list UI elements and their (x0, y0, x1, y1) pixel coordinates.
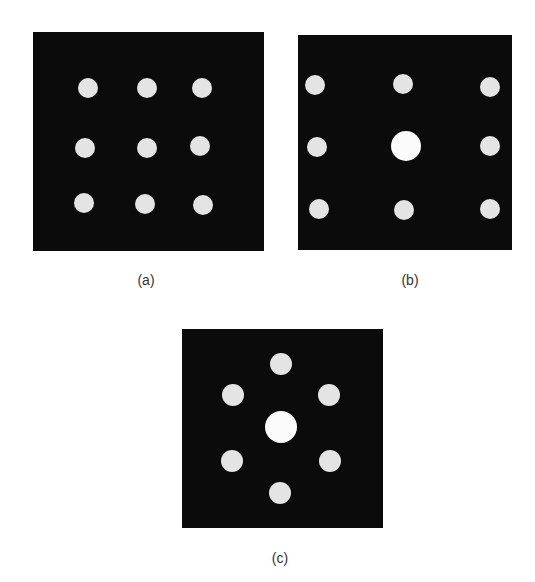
dot (480, 77, 500, 97)
dot (192, 78, 212, 98)
panel-b-label: (b) (401, 272, 418, 288)
center-dot (391, 131, 421, 161)
dot (309, 199, 329, 219)
dot (393, 74, 413, 94)
dot (221, 450, 243, 472)
dot (307, 137, 327, 157)
dot (190, 136, 210, 156)
dot (74, 193, 94, 213)
panel-b (298, 35, 512, 250)
dot (137, 138, 157, 158)
dot (318, 384, 340, 406)
dot (75, 138, 95, 158)
dot (193, 195, 213, 215)
panel-c-label: (c) (272, 550, 288, 566)
dot (269, 482, 291, 504)
dot (270, 353, 292, 375)
panel-a-image (33, 32, 264, 251)
panel-c-image (182, 329, 383, 528)
panel-a-label: (a) (137, 272, 154, 288)
dot (480, 199, 500, 219)
dot (394, 200, 414, 220)
dot (137, 78, 157, 98)
dot (78, 78, 98, 98)
dot (135, 194, 155, 214)
dot (305, 75, 325, 95)
panel-b-image (298, 35, 512, 250)
dot (222, 384, 244, 406)
dot (480, 136, 500, 156)
dot (319, 450, 341, 472)
panel-c (182, 329, 383, 528)
center-dot (265, 411, 297, 443)
panel-a (33, 32, 264, 251)
